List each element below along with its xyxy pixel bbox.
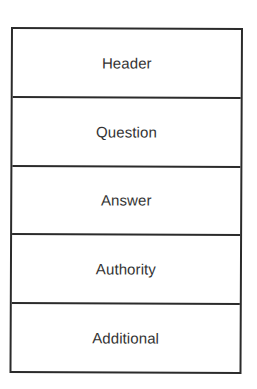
section-additional-label: Additional (92, 329, 159, 346)
section-answer-label: Answer (101, 192, 152, 209)
section-question: Question (12, 96, 240, 166)
section-authority-label: Authority (96, 261, 156, 278)
section-header: Header (13, 29, 241, 97)
section-additional: Additional (11, 302, 239, 372)
section-authority: Authority (12, 233, 240, 303)
section-question-label: Question (96, 123, 157, 140)
message-section-stack: Header Question Answer Authority Additio… (9, 27, 243, 374)
section-header-label: Header (102, 54, 152, 71)
section-answer: Answer (12, 165, 240, 235)
